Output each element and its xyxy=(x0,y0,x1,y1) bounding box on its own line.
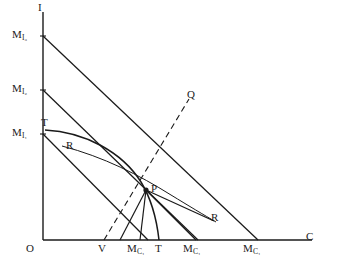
x-intercept-mc1-main: M xyxy=(127,242,137,254)
expansion-path-label-q: Q xyxy=(187,89,195,100)
axes-group xyxy=(43,12,312,240)
y-axis-label: I xyxy=(38,2,42,13)
budget-line-2 xyxy=(43,90,198,240)
budget-line-1 xyxy=(43,134,148,240)
transformation-curve-label-bottom: T xyxy=(155,243,162,254)
x-intercept-mc3-main: M xyxy=(243,242,253,254)
indifference-curve-RR xyxy=(62,146,216,222)
diagram-canvas xyxy=(0,0,337,271)
economics-diagram: I C O MI₃ MI₂ MI₁ MC₁ MC₁ MC₁ T T R R P … xyxy=(0,0,337,271)
x-intercept-mc1-sub: C₁ xyxy=(137,247,145,256)
y-intercept-label-mi2: MI₂ xyxy=(12,83,27,96)
budget-line-3 xyxy=(43,36,258,240)
y-intercept-mi1-sub: I₁ xyxy=(22,131,27,140)
ray-P-to-mc-middle xyxy=(146,190,196,240)
origin-label: O xyxy=(26,243,34,254)
x-intercept-label-mc3: MC₁ xyxy=(243,243,261,256)
y-intercept-mi1-main: M xyxy=(12,126,22,138)
transformation-curve-label-top: T xyxy=(41,117,48,128)
x-intercept-label-mc2: MC₁ xyxy=(183,243,201,256)
y-intercept-mi2-sub: I₂ xyxy=(22,87,27,96)
y-intercept-mi3-main: M xyxy=(12,28,22,40)
indifference-curve-label-lower: R xyxy=(211,212,219,223)
ray-P-to-R-lower xyxy=(146,190,214,221)
x-intercept-mc2-main: M xyxy=(183,242,193,254)
budget-lines-group xyxy=(43,36,258,240)
indifference-curve-label-upper: R xyxy=(66,140,74,151)
x-intercept-mc3-sub: C₁ xyxy=(253,247,261,256)
y-intercept-label-mi3: MI₃ xyxy=(12,29,27,42)
expansion-path-label-v: V xyxy=(98,243,106,254)
equilibrium-point-label: P xyxy=(151,183,157,194)
y-intercept-mi2-main: M xyxy=(12,82,22,94)
x-intercept-label-mc1: MC₁ xyxy=(127,243,145,256)
y-intercept-label-mi1: MI₁ xyxy=(12,127,27,140)
rays-from-P-group xyxy=(120,190,214,240)
x-intercept-mc2-sub: C₁ xyxy=(193,247,201,256)
equilibrium-point-marker xyxy=(143,187,148,192)
ray-P-to-mc-inner xyxy=(140,190,146,240)
y-intercept-mi3-sub: I₃ xyxy=(22,33,27,42)
x-axis-label: C xyxy=(306,231,314,242)
